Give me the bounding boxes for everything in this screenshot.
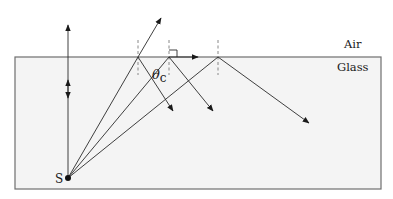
theta-symbol: θ xyxy=(152,67,160,82)
source-label: S xyxy=(55,172,63,186)
right-angle-marker xyxy=(169,50,177,57)
glass-block xyxy=(15,57,381,189)
air-label: Air xyxy=(343,37,362,51)
source-point xyxy=(65,175,71,181)
theta-subscript: c xyxy=(160,71,167,85)
tir-diagram: S θc Air Glass xyxy=(0,0,393,199)
ray-1-refracted xyxy=(138,18,161,57)
glass-label: Glass xyxy=(337,60,369,74)
